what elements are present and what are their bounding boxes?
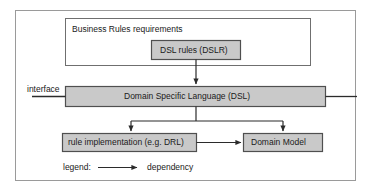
node-label-rule-implementation: rule implementation (e.g. DRL) (68, 138, 184, 147)
legend-entry-dependency: dependency (147, 163, 193, 172)
node-label-domain-specific-language: Domain Specific Language (DSL) (124, 92, 250, 101)
container-label-business-rules-requirements: Business Rules requirements (72, 25, 183, 34)
legend-title: legend: (63, 163, 91, 172)
diagram-canvas: Business Rules requirements DSL rules (D… (0, 0, 371, 189)
node-label-dsl-rules: DSL rules (DSLR) (160, 46, 228, 55)
annotation-label-interface: interface (27, 85, 60, 94)
node-label-domain-model: Domain Model (251, 138, 306, 147)
